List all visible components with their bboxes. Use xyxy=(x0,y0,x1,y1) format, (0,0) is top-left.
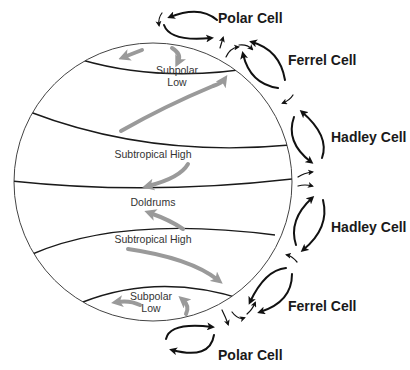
ferrel-cell-north-small-arrow-2 xyxy=(239,45,252,49)
hadley-cell-north-small-arrow-2 xyxy=(298,185,312,186)
globe-outline xyxy=(14,43,292,321)
polar-cell-north-arrow-top xyxy=(170,12,217,20)
polar-cell-north xyxy=(159,12,223,48)
subtropical-high-north-line xyxy=(30,112,290,148)
label-subpolar-low-south-1: Subpolar xyxy=(130,290,173,302)
label-doldrums: Doldrums xyxy=(131,196,176,208)
polar-cell-south-sink-arrow xyxy=(222,310,228,324)
label-subtropical-high-south: Subtropical High xyxy=(114,233,191,245)
hadley-cell-south-arrow-up xyxy=(294,198,312,245)
hadley-cell-north xyxy=(292,112,324,186)
polar-cell-south-arrow-top xyxy=(166,326,212,339)
polar-cell-north-small-arrow xyxy=(159,13,162,25)
wind-arrow-trade-south xyxy=(150,213,183,229)
hadley-cell-north-arrow-down xyxy=(292,117,311,162)
hadley-cell-north-arrow-up xyxy=(302,112,324,158)
hadley-cell-south-small-arrow xyxy=(287,255,297,262)
circulation-diagram: Subpolar Low Subtropical High Doldrums S… xyxy=(0,0,410,370)
hadley-cell-south xyxy=(287,198,324,262)
label-subpolar-low-north-1: Subpolar xyxy=(156,64,199,76)
wind-arrow-subpolar-south xyxy=(183,300,187,314)
label-polar-cell-south: Polar Cell xyxy=(218,347,283,363)
label-ferrel-cell-north: Ferrel Cell xyxy=(288,52,356,68)
label-ferrel-cell-south: Ferrel Cell xyxy=(288,298,356,314)
ferrel-cell-north-arrow-top xyxy=(252,42,285,80)
polar-cell-south-arrow-bottom xyxy=(172,335,214,353)
label-hadley-cell-south: Hadley Cell xyxy=(331,219,406,235)
ferrel-cell-south-small-arrow-1 xyxy=(247,303,255,314)
hadley-cell-north-small-arrow-1 xyxy=(298,172,312,177)
label-hadley-cell-north: Hadley Cell xyxy=(331,129,406,145)
label-subtropical-high-north: Subtropical High xyxy=(114,148,191,160)
polar-cell-north-rise-arrow xyxy=(220,38,223,48)
wind-arrow-westerly-south xyxy=(128,249,218,280)
ferrel-cell-north-sink-arrow xyxy=(283,95,293,103)
hadley-cell-south-arrow-down xyxy=(303,200,324,250)
ferrel-cell-north-arrow-bottom xyxy=(243,54,278,88)
ferrel-cell-south xyxy=(232,268,292,318)
label-subpolar-low-south-2: Low xyxy=(141,302,161,314)
label-subpolar-low-north-2: Low xyxy=(167,76,187,88)
ferrel-cell-south-arrow-down xyxy=(250,268,286,302)
ferrel-cell-north xyxy=(226,42,293,103)
label-polar-cell-north: Polar Cell xyxy=(218,10,283,26)
polar-cell-north-arrow-bottom xyxy=(164,25,211,39)
wind-arrow-subpolar-north xyxy=(172,48,179,62)
wind-arrow-trade-north xyxy=(148,164,188,186)
wind-arrow-polar-easterly-north xyxy=(124,50,142,57)
ferrel-cell-south-small-arrow-2 xyxy=(232,312,244,318)
ferrel-cell-north-small-arrow-1 xyxy=(226,47,238,57)
latitude-lines xyxy=(12,60,300,302)
